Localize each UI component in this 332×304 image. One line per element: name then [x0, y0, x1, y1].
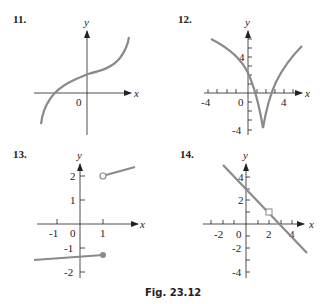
- figure-canvas: 11. x y 0 12. x y -4 0 4 4 -4: [0, 0, 332, 304]
- open-endpoint: [100, 173, 106, 179]
- y-axis-label: y: [76, 149, 82, 161]
- panel-12: 12. x y -4 0 4 4 -4: [178, 13, 310, 136]
- y-tick-label: 2: [70, 170, 76, 182]
- y-axis-label: y: [242, 149, 248, 161]
- panel-14: 14. x y -2 0 2 4 4 2 -2 -4: [180, 148, 314, 278]
- x-tick-label: 4: [281, 96, 287, 108]
- panel-number: 14.: [180, 148, 194, 160]
- curve: [211, 39, 302, 128]
- figure-caption: Fig. 23.12: [145, 287, 201, 298]
- x-tick-label: -1: [49, 227, 58, 239]
- hole-marker: [266, 209, 272, 215]
- y-ticks: [248, 39, 252, 130]
- y-tick-label: -2: [232, 242, 241, 254]
- panel-number: 12.: [178, 13, 192, 25]
- y-tick-label: 1: [70, 194, 76, 206]
- closed-endpoint: [100, 252, 106, 258]
- x-tick-label: 1: [100, 227, 106, 239]
- curve: [41, 37, 129, 124]
- x-axis-label: x: [133, 87, 139, 99]
- y-tick-label: -1: [64, 242, 73, 254]
- panel-number: 11.: [13, 13, 26, 25]
- origin-label: 0: [76, 96, 82, 108]
- x-tick-label: 0: [238, 96, 244, 108]
- upper-segment: [106, 167, 135, 175]
- x-ticks: [208, 89, 293, 93]
- panel-13: 13. x y -1 0 1 2 1 -1 -2: [13, 148, 145, 278]
- x-axis-label: x: [304, 87, 310, 99]
- x-axis-label: x: [139, 218, 145, 230]
- x-axis-label: x: [308, 218, 314, 230]
- y-tick-label: 2: [238, 194, 244, 206]
- panel-number: 13.: [13, 148, 27, 160]
- x-tick-label: -2: [214, 228, 223, 240]
- lower-segment: [34, 255, 103, 260]
- x-tick-label: 2: [266, 228, 272, 240]
- y-tick-label: -4: [232, 266, 242, 278]
- x-tick-label: 0: [236, 228, 242, 240]
- y-axis-label: y: [244, 16, 250, 28]
- y-axis-label: y: [83, 16, 89, 28]
- y-tick-label: -2: [64, 266, 73, 278]
- y-tick-label: -4: [232, 124, 242, 136]
- panel-11: 11. x y 0: [13, 13, 139, 135]
- x-tick-label: 0: [70, 227, 76, 239]
- x-tick-label: -4: [201, 96, 211, 108]
